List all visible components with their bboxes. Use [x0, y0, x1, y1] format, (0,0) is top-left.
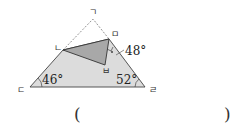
answer-close-paren: ) — [224, 104, 231, 124]
vertex-label-folded: ㅂ — [102, 66, 110, 76]
vertex-label-top: ㄱ — [89, 7, 97, 17]
vertex-label-right-mid: ㅁ — [111, 29, 119, 39]
angle-label-bottom-right: 52° — [116, 73, 137, 87]
vertex-label-bottom-right: ㄹ — [149, 85, 157, 95]
answer-open-paren: ( — [74, 104, 81, 124]
vertex-label-left-mid: ㄴ — [54, 43, 62, 53]
triangle-figure: ㄱ ㄴ ㄷ ㄹ ㅁ ㅂ 46° 52° 48° — [0, 0, 241, 140]
angle-dot — [111, 51, 113, 53]
angle-label-m: 48° — [125, 44, 146, 58]
angle-label-bottom-left: 46° — [42, 73, 63, 87]
vertex-label-bottom-left: ㄷ — [17, 85, 25, 95]
